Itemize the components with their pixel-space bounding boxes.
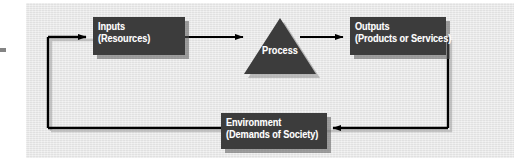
node-environment-line2: (Demands of Society) xyxy=(226,129,319,141)
node-inputs-line2: (Resources) xyxy=(98,33,178,45)
node-outputs-line1: Outputs xyxy=(355,21,439,33)
node-inputs-line1: Inputs xyxy=(98,21,178,33)
node-process-label: Process xyxy=(252,45,307,57)
node-environment: Environment (Demands of Society) xyxy=(221,113,327,149)
node-environment-line1: Environment xyxy=(226,117,319,129)
node-inputs: Inputs (Resources) xyxy=(93,17,185,55)
process-flow-diagram: Inputs (Resources) Outputs (Products or … xyxy=(0,0,520,161)
node-outputs: Outputs (Products or Services) xyxy=(350,17,446,55)
node-outputs-line2: (Products or Services) xyxy=(355,33,439,45)
